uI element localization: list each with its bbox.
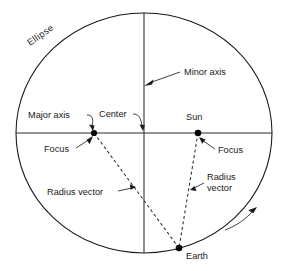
focus-right-label: Focus xyxy=(218,145,243,155)
ellipse-label: Ellipse xyxy=(25,23,55,48)
focus-left-leader-arrowhead xyxy=(87,136,94,144)
sun-label: Sun xyxy=(186,112,202,122)
orbit-direction-arrowhead xyxy=(248,207,257,213)
radius-vector-right-label-line2: vector xyxy=(207,183,232,193)
radius-vector-right-leader-line xyxy=(194,183,204,188)
major-axis-label: Major axis xyxy=(28,110,70,120)
earth-dot xyxy=(176,245,183,252)
focus-right-leader-arrowhead xyxy=(199,137,206,144)
minor-axis-leader-arrowhead xyxy=(144,79,154,86)
center-leader-line xyxy=(133,114,142,126)
minor-axis-label: Minor axis xyxy=(184,67,226,77)
radius-vector-right-label-line1: Radius xyxy=(207,172,236,182)
radius-vector-left-label: Radius vector xyxy=(47,187,103,197)
radius-vector-left-leader-line xyxy=(118,188,132,191)
center-label: Center xyxy=(99,109,127,119)
sun-dot xyxy=(195,130,202,137)
earth-label: Earth xyxy=(186,251,208,261)
minor-axis-leader-line xyxy=(152,72,180,82)
ellipse-orbit-diagram: Ellipse Minor axis Major axis Center Sun… xyxy=(0,0,293,271)
major-axis-leader-line xyxy=(87,115,93,126)
radius-vector-left-focus xyxy=(94,133,179,248)
left-focus-dot xyxy=(91,130,97,136)
orbit-diagram-canvas: Ellipse Minor axis Major axis Center Sun… xyxy=(0,0,293,271)
focus-left-label: Focus xyxy=(44,144,69,154)
